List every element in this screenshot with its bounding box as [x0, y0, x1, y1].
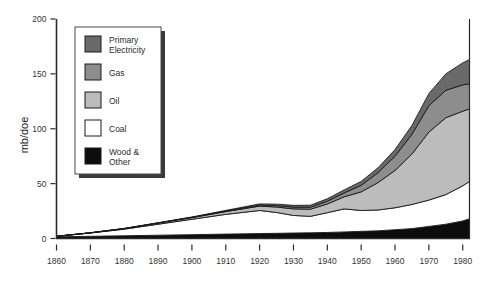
x-tick-label: 1890	[149, 256, 168, 266]
legend-swatch-oil	[85, 92, 101, 108]
legend-swatch-gas	[85, 64, 101, 80]
chart-svg: 050100150200 186018701880189019001910192…	[0, 0, 496, 286]
legend-label-oil: Oil	[109, 96, 120, 106]
legend-label-wood-other-line2: Other	[109, 157, 130, 167]
legend-swatch-primary-electricity	[85, 36, 101, 52]
legend-label-wood-other-line1: Wood &	[109, 147, 139, 157]
legend-label-coal: Coal	[109, 124, 127, 134]
y-tick-label: 0	[42, 234, 47, 244]
x-tick-label: 1940	[318, 256, 337, 266]
x-tick-label: 1860	[47, 256, 66, 266]
x-tick-label: 1930	[284, 256, 303, 266]
legend: Primary Electricity Gas Oil Coal Wood & …	[75, 27, 165, 178]
x-tick-label: 1980	[453, 256, 472, 266]
x-axis-ticks: 1860187018801890190019101920193019401950…	[47, 245, 472, 266]
y-tick-label: 100	[32, 124, 46, 134]
y-tick-label: 150	[32, 69, 46, 79]
x-tick-label: 1970	[419, 256, 438, 266]
x-tick-label: 1910	[216, 256, 235, 266]
y-axis-title: mb/doe	[18, 117, 30, 154]
legend-label-gas: Gas	[109, 68, 125, 78]
y-tick-label: 200	[32, 14, 46, 24]
x-tick-label: 1920	[250, 256, 269, 266]
y-axis-ticks: 050100150200	[32, 14, 55, 244]
x-tick-label: 1880	[115, 256, 134, 266]
energy-consumption-area-chart: 050100150200 186018701880189019001910192…	[0, 0, 496, 286]
legend-swatch-coal	[85, 120, 101, 136]
x-tick-label: 1900	[182, 256, 201, 266]
legend-label-primary-electricity-line2: Electricity	[109, 45, 146, 55]
legend-label-primary-electricity-line1: Primary	[109, 35, 139, 45]
y-tick-label: 50	[37, 179, 47, 189]
x-tick-label: 1960	[386, 256, 405, 266]
x-tick-label: 1950	[352, 256, 371, 266]
x-tick-label: 1870	[81, 256, 100, 266]
legend-swatch-wood-other	[85, 148, 101, 164]
